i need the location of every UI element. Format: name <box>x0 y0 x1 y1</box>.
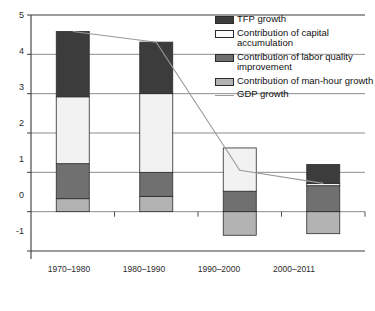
bar-segment <box>140 196 173 211</box>
chart-root: 5 4 3 2 1 0 -1 1970–1980 1980–1990 1990–… <box>0 0 375 311</box>
bar-segment <box>223 191 256 211</box>
line-swatch-icon <box>215 91 234 99</box>
legend-label: TFP growth <box>237 14 375 25</box>
legend-item-man-hour-growth: Contribution of man-hour growth <box>215 76 375 87</box>
x-tick-label-0: 1970–1980 <box>31 265 107 274</box>
bar-segment <box>307 212 340 234</box>
bar-segment <box>140 172 173 196</box>
light-gray-swatch-icon <box>215 78 234 86</box>
x-tick-label-1: 1980–1990 <box>106 265 182 274</box>
chart-legend: TFP growth Contribution of capital accum… <box>215 14 375 103</box>
x-tick-label-2: 1990–2000 <box>181 265 257 274</box>
legend-label: GDP growth <box>237 89 375 100</box>
legend-item-tfp-growth: TFP growth <box>215 14 375 25</box>
bar-segment <box>140 94 173 173</box>
legend-item-gdp-growth: GDP growth <box>215 89 375 100</box>
white-swatch-icon <box>215 30 234 38</box>
bar-segment <box>56 97 89 164</box>
bar-segment <box>307 186 340 212</box>
legend-label: Contribution of capital accumulation <box>237 28 375 49</box>
bar-segment <box>307 164 340 183</box>
dark-swatch-icon <box>215 16 234 24</box>
bar-segment <box>140 42 173 94</box>
legend-item-capital-accumulation: Contribution of capital accumulation <box>215 28 375 49</box>
medium-gray-swatch-icon <box>215 54 234 62</box>
legend-item-labor-quality: Contribution of labor quality improvemen… <box>215 52 375 73</box>
bar-segment <box>56 32 89 97</box>
legend-label: Contribution of man-hour growth <box>237 76 375 87</box>
x-tick-label-3: 2000–2011 <box>256 265 332 274</box>
legend-label: Contribution of labor quality improvemen… <box>237 52 375 73</box>
bar-segment <box>56 164 89 199</box>
bar-segment <box>56 199 89 212</box>
bar-segment <box>223 212 256 236</box>
